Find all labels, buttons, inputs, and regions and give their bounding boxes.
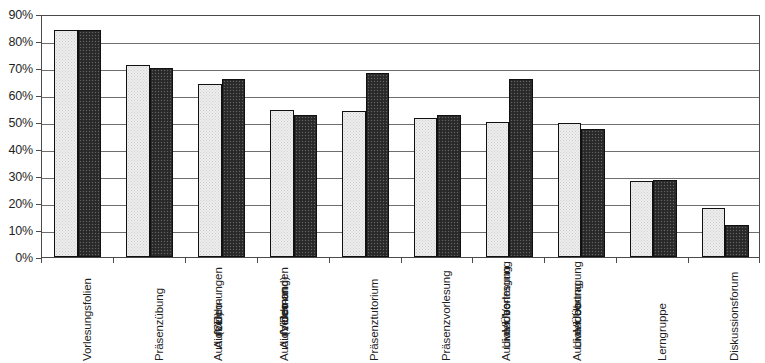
x-axis-label-line: (CD) bbox=[212, 323, 225, 336]
x-axis-labels: VorlesungsfolienPräsenzübungAudioVideo-A… bbox=[41, 264, 760, 363]
x-tick-mark bbox=[401, 258, 402, 263]
x-axis-label-line: Aufzeichnungen bbox=[212, 336, 225, 349]
plot-area bbox=[41, 15, 760, 258]
bar-group bbox=[54, 16, 101, 257]
x-axis-label-line: der Vorlesung bbox=[500, 323, 513, 336]
bar-series-a bbox=[702, 208, 726, 257]
bar-group bbox=[702, 16, 749, 257]
y-tick-label: 20% bbox=[9, 198, 33, 210]
bar-group bbox=[342, 16, 389, 257]
bar-series-a bbox=[342, 111, 366, 257]
x-axis-label-line: AudioVideo- bbox=[571, 348, 584, 361]
bar-series-b bbox=[581, 129, 605, 257]
bar-series-a bbox=[558, 123, 582, 257]
y-axis: 0%10%20%30%40%50%60%70%80%90% bbox=[0, 0, 38, 268]
bar-series-a bbox=[270, 110, 294, 257]
x-axis-label-line: Vorlesungsfolien bbox=[81, 348, 94, 361]
bar-group bbox=[486, 16, 533, 257]
x-axis-label-line: AudioVideo- bbox=[212, 348, 225, 361]
x-axis-label-line: AudioVideo- bbox=[500, 348, 513, 361]
y-tick-label: 70% bbox=[9, 63, 33, 75]
bar-series-b bbox=[294, 115, 318, 257]
bar-series-a bbox=[414, 118, 438, 257]
bar-group bbox=[630, 16, 677, 257]
x-axis-label-line: der Übung bbox=[571, 323, 584, 336]
x-axis-label-line: Demand) bbox=[278, 311, 291, 324]
bar-series-b bbox=[366, 73, 390, 257]
y-tick-label: 50% bbox=[9, 117, 33, 129]
x-axis-label-line: AudioVideo- bbox=[278, 348, 291, 361]
x-axis-ticks bbox=[41, 258, 760, 263]
x-tick-mark bbox=[472, 258, 473, 263]
x-tick-mark bbox=[616, 258, 617, 263]
bar-group bbox=[414, 16, 461, 257]
bar-series-b bbox=[653, 180, 677, 257]
x-axis-label-line: Live-Übertragung bbox=[571, 336, 584, 349]
x-tick-mark bbox=[185, 258, 186, 263]
x-tick-mark bbox=[759, 258, 760, 263]
x-axis-label-line: Präsenzübung bbox=[153, 348, 166, 361]
bar-series-a bbox=[54, 30, 78, 257]
y-tick-label: 30% bbox=[9, 171, 33, 183]
bar-series-b bbox=[509, 79, 533, 257]
x-tick-mark bbox=[329, 258, 330, 263]
x-axis-label-line: Diskussionsforum bbox=[728, 348, 741, 361]
y-tick-label: 80% bbox=[9, 36, 33, 48]
x-axis-label-line: Live-Übertragung bbox=[500, 336, 513, 349]
x-tick-mark bbox=[544, 258, 545, 263]
bars-layer bbox=[42, 16, 759, 257]
x-tick-mark bbox=[41, 258, 42, 263]
y-tick-label: 10% bbox=[9, 225, 33, 237]
bar-group bbox=[270, 16, 317, 257]
bar-series-a bbox=[198, 84, 222, 257]
x-axis-label-line: Präsenzvorlesung bbox=[440, 348, 453, 361]
x-axis-label-line: Präsenztutorium bbox=[368, 348, 381, 361]
y-tick-label: 60% bbox=[9, 90, 33, 102]
bar-series-b bbox=[725, 225, 749, 257]
bar-series-b bbox=[222, 79, 246, 257]
y-tick-label: 40% bbox=[9, 144, 33, 156]
x-axis-label-line: (Video on bbox=[278, 323, 291, 336]
bar-series-b bbox=[78, 30, 102, 257]
x-tick-mark bbox=[688, 258, 689, 263]
bar-chart: 0%10%20%30%40%50%60%70%80%90% Vorlesungs… bbox=[0, 0, 765, 363]
bar-series-b bbox=[150, 68, 174, 257]
bar-series-a bbox=[486, 122, 510, 257]
bar-series-a bbox=[126, 65, 150, 257]
bar-group bbox=[198, 16, 245, 257]
y-tick-label: 90% bbox=[9, 9, 33, 21]
bar-series-b bbox=[437, 115, 461, 257]
bar-group bbox=[126, 16, 173, 257]
x-axis-label-line: Aufzeichnungen bbox=[278, 336, 291, 349]
x-axis-label-line: Lerngruppe bbox=[656, 348, 669, 361]
x-tick-mark bbox=[257, 258, 258, 263]
x-tick-mark bbox=[113, 258, 114, 263]
bar-group bbox=[558, 16, 605, 257]
bar-series-a bbox=[630, 181, 654, 257]
y-tick-label: 0% bbox=[15, 252, 33, 264]
